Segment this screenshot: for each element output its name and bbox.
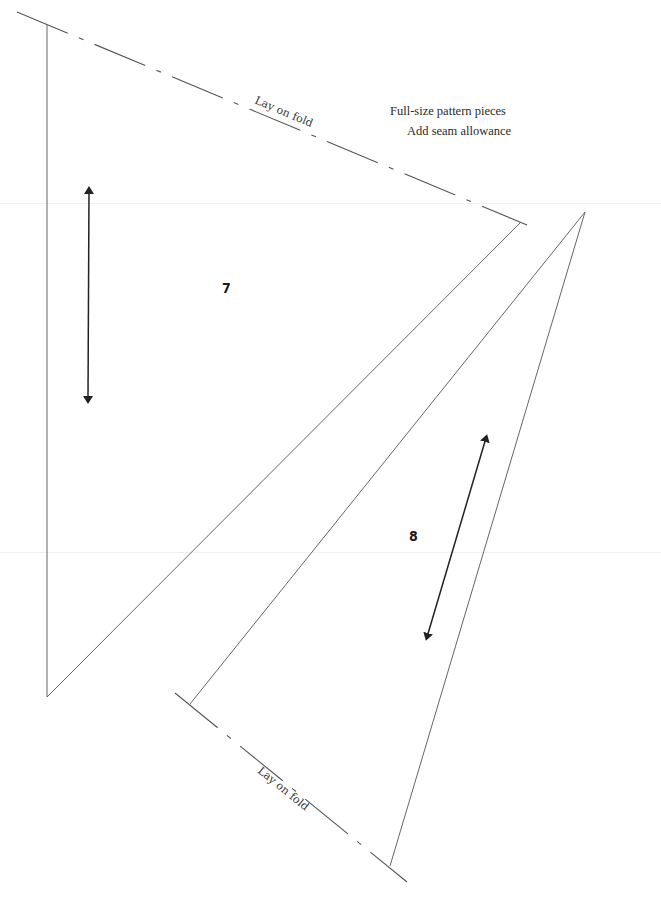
note-full-size: Full-size pattern pieces [390, 104, 506, 119]
fold-label-7: Lay on fold [253, 94, 315, 130]
edge-8-right [390, 212, 585, 866]
edge-8-left [190, 212, 585, 704]
pattern-diagram: 7 Lay on fold 8 Lay on fold [0, 0, 661, 898]
piece-number-8: 8 [409, 528, 418, 544]
note-seam-allowance: Add seam allowance [407, 124, 511, 139]
grainline-arrow-7 [88, 190, 89, 400]
edge-7-diagonal [47, 222, 521, 697]
fold-label-8: Lay on fold [255, 764, 311, 813]
pattern-piece-8: 8 Lay on fold [175, 212, 585, 882]
grainline-arrow-8 [427, 438, 486, 637]
piece-number-7: 7 [222, 280, 231, 296]
